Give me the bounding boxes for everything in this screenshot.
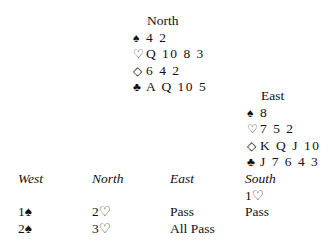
header-north: North (92, 171, 170, 188)
bid: 2♠ (18, 221, 92, 238)
east-spades: ♠8 (247, 105, 320, 122)
north-label: North (133, 13, 207, 30)
north-diamonds: ◇6 4 2 (133, 63, 207, 80)
east-hand: East ♠8 ♡7 5 2 ◇K Q J 10 ♣J 7 6 4 3 (247, 88, 320, 171)
spade-icon: ♠ (133, 30, 146, 47)
bid (18, 188, 92, 205)
auction-row: 1♡ (18, 188, 305, 205)
heart-icon: ♡ (247, 121, 260, 138)
club-icon: ♣ (247, 154, 260, 171)
header-south: South (245, 171, 305, 188)
east-hearts: ♡7 5 2 (247, 121, 320, 138)
bid (92, 188, 170, 205)
auction-row: 1♠ 2♡ Pass Pass (18, 204, 305, 221)
bid: 1♡ (245, 188, 305, 205)
bid: All Pass (170, 221, 245, 238)
diamond-icon: ◇ (247, 138, 260, 155)
north-hearts: ♡Q 10 8 3 (133, 46, 207, 63)
north-hand: North ♠4 2 ♡Q 10 8 3 ◇6 4 2 ♣A Q 10 5 (133, 13, 207, 96)
auction-table: West North East South 1♡ 1♠ 2♡ Pass Pass… (18, 171, 305, 237)
bid: 3♡ (92, 221, 170, 238)
east-label: East (247, 88, 320, 105)
spade-icon: ♠ (247, 105, 260, 122)
bid (245, 221, 305, 238)
bid: Pass (245, 204, 305, 221)
east-diamonds: ◇K Q J 10 (247, 138, 320, 155)
club-icon: ♣ (133, 79, 146, 96)
bid (170, 188, 245, 205)
east-clubs: ♣J 7 6 4 3 (247, 154, 320, 171)
bid: Pass (170, 204, 245, 221)
north-clubs: ♣A Q 10 5 (133, 79, 207, 96)
north-spades: ♠4 2 (133, 30, 207, 47)
bid: 2♡ (92, 204, 170, 221)
auction-row: 2♠ 3♡ All Pass (18, 221, 305, 238)
header-west: West (18, 171, 92, 188)
heart-icon: ♡ (133, 46, 146, 63)
header-east: East (170, 171, 245, 188)
auction-header: West North East South (18, 171, 305, 188)
bid: 1♠ (18, 204, 92, 221)
diamond-icon: ◇ (133, 63, 146, 80)
